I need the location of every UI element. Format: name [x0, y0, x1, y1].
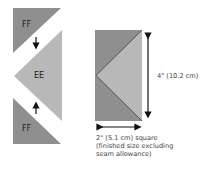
width-label-line-3: seam allowance) — [96, 150, 173, 158]
width-label-line-1: 2" (5.1 cm) square — [96, 134, 173, 142]
top-ff-label: FF — [22, 20, 31, 29]
bottom-ff-label: FF — [22, 124, 31, 133]
height-label: 4" (10.2 cm) — [157, 72, 198, 80]
width-label-line-2: (finished size excluding — [96, 142, 173, 150]
width-label: 2" (5.1 cm) square (finished size exclud… — [96, 134, 173, 159]
center-ee-label: EE — [34, 71, 44, 80]
